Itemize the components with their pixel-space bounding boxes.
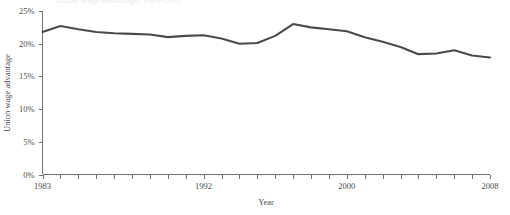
y-tick-group: 0%5%10%15%20%25%	[19, 6, 43, 180]
x-tick-label: 1983	[34, 181, 51, 191]
x-tick-label: 1992	[195, 181, 212, 191]
line-chart: 0%5%10%15%20%25% 1983199220002008 Year U…	[0, 0, 510, 215]
y-axis-title: Union wage advantage	[2, 54, 12, 132]
x-tick-group: 1983199220002008	[34, 175, 499, 191]
data-series-group	[43, 24, 491, 57]
y-tick-label: 15%	[19, 71, 35, 81]
x-tick-label: 2000	[338, 181, 355, 191]
y-tick-label: 0%	[23, 170, 34, 180]
y-axis: 0%5%10%15%20%25%	[19, 6, 43, 180]
chart-container: Union wage advantage, 1983-2008 0%5%10%1…	[0, 0, 510, 215]
data-line-union-wage-advantage	[43, 24, 491, 57]
y-tick-label: 20%	[19, 39, 35, 49]
y-tick-label: 10%	[19, 104, 35, 114]
x-axis: 1983199220002008	[34, 175, 499, 191]
x-tick-label: 2008	[482, 181, 499, 191]
y-tick-label: 25%	[19, 6, 35, 16]
y-tick-label: 5%	[23, 137, 34, 147]
x-axis-title: Year	[258, 197, 274, 207]
